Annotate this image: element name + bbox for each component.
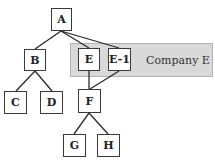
node-b: B [24,49,46,71]
edge-b-c [16,71,35,91]
node-h: H [97,134,120,157]
edge-a-e [61,31,89,48]
node-a: A [51,8,72,31]
edge-e1-f [90,71,119,89]
edge-f-g [74,113,89,134]
node-d: D [40,91,63,114]
edge-a-b [35,31,61,49]
node-g: G [63,134,86,157]
org-tree-diagram: Company E A B C D E E-1 F G H [0,0,215,162]
edge-f-h [89,113,108,134]
edge-a-e1 [61,31,119,48]
edge-b-d [35,71,52,91]
node-f: F [78,89,101,113]
node-e: E [78,48,100,71]
node-e-1: E-1 [108,48,131,71]
node-c: C [4,91,27,114]
